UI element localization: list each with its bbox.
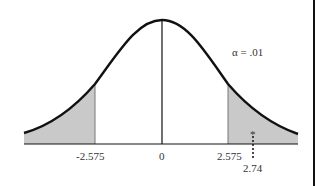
right-rejection-region: [228, 84, 298, 144]
test-statistic-marker: *: [250, 128, 256, 140]
test-statistic-label: 2.74: [243, 162, 263, 174]
normal-curve-chart: * α = .01 -2.575 0 2.575 2.74: [0, 0, 318, 186]
tick-center-label: 0: [159, 150, 165, 162]
tick-right-label: 2.575: [217, 150, 242, 162]
tick-left-label: -2.575: [76, 150, 105, 162]
alpha-label: α = .01: [232, 46, 263, 58]
left-rejection-region: [24, 84, 95, 144]
